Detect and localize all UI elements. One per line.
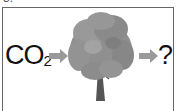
arrow-right-icon xyxy=(139,49,159,63)
question-number: 3. xyxy=(3,0,13,4)
tree-icon xyxy=(65,11,137,103)
unknown-output: ? xyxy=(158,42,173,69)
co2-label: CO2 xyxy=(5,42,51,72)
co2-formula: CO xyxy=(5,40,44,70)
